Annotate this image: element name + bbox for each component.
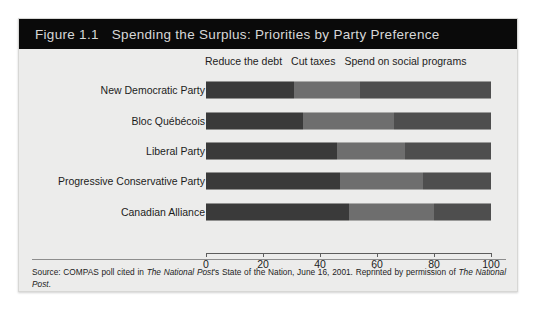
x-axis-tick-1 (263, 253, 264, 257)
bar-segment-1 (294, 82, 360, 99)
category-label-3: Progressive Conservative Party (25, 175, 205, 187)
source-prefix: Source: COMPAS poll cited in (32, 267, 147, 277)
category-label-4: Canadian Alliance (25, 206, 205, 218)
source-divider (32, 259, 506, 260)
bar-segment-2 (360, 82, 491, 99)
bar-segment-1 (303, 112, 394, 129)
bar-segment-0 (206, 143, 337, 160)
figure-title-bar: Figure 1.1 Spending the Surplus: Priorit… (19, 19, 517, 49)
x-axis-tick-2 (320, 253, 321, 257)
bar-segment-0 (206, 112, 303, 129)
x-axis-tick-0 (206, 253, 207, 257)
figure-panel: Figure 1.1 Spending the Surplus: Priorit… (18, 18, 518, 292)
chart-plot-area: Reduce the debtCut taxesSpend on social … (19, 49, 517, 257)
bar-segment-2 (423, 173, 491, 190)
y-axis-category-labels: New Democratic PartyBloc QuébécoisLibera… (25, 75, 205, 227)
bar-segment-1 (337, 143, 405, 160)
category-label-2: Liberal Party (25, 145, 205, 157)
bar-segment-2 (434, 203, 491, 220)
legend-label-1: Cut taxes (291, 55, 335, 67)
bar-segment-1 (349, 203, 435, 220)
figure-number: Figure 1.1 (35, 27, 99, 42)
bar-row (206, 82, 491, 99)
figure-title: Spending the Surplus: Priorities by Part… (112, 27, 440, 42)
chart-legend: Reduce the debtCut taxesSpend on social … (205, 55, 505, 71)
x-axis-tick-4 (434, 253, 435, 257)
bar-row (206, 112, 491, 129)
source-middle: 's State of the Nation, June 16, 2001. R… (213, 267, 458, 277)
bar-row (206, 173, 491, 190)
source-suffix: . (49, 279, 51, 289)
bar-segment-2 (405, 143, 491, 160)
bar-row (206, 143, 491, 160)
x-axis-line (206, 253, 491, 254)
bar-segment-0 (206, 82, 294, 99)
category-label-1: Bloc Québécois (25, 115, 205, 127)
source-publication-1: The National Post (147, 267, 214, 277)
legend-label-0: Reduce the debt (205, 55, 282, 67)
bar-row (206, 203, 491, 220)
bar-segment-0 (206, 173, 340, 190)
bar-segment-0 (206, 203, 349, 220)
x-axis-tick-5 (491, 253, 492, 257)
stacked-bars (206, 75, 491, 227)
source-note: Source: COMPAS poll cited in The Nationa… (32, 267, 506, 290)
bar-segment-2 (394, 112, 491, 129)
bar-segment-1 (340, 173, 423, 190)
category-label-0: New Democratic Party (25, 84, 205, 96)
x-axis-tick-3 (377, 253, 378, 257)
legend-label-2: Spend on social programs (344, 55, 466, 67)
